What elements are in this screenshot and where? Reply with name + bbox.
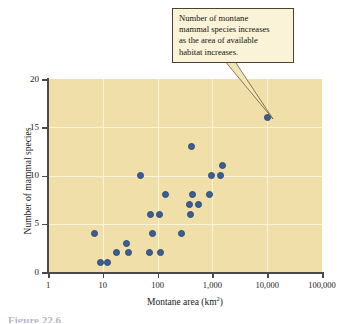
gridline-y-10 bbox=[48, 176, 322, 177]
scatter-plot-figure: 05101520 1101001,00010,000100,000 Number… bbox=[0, 0, 360, 324]
data-point bbox=[162, 191, 169, 198]
callout-line-3: as the area of available bbox=[179, 35, 288, 46]
x-tick-label-100: 100 bbox=[151, 281, 164, 290]
gridline-y-5 bbox=[48, 224, 322, 225]
data-point bbox=[97, 259, 104, 266]
x-tick-10 bbox=[103, 272, 105, 278]
y-tick-5 bbox=[42, 224, 48, 226]
data-point bbox=[91, 230, 98, 237]
x-tick-label-10000: 10,000 bbox=[256, 281, 279, 290]
data-point bbox=[187, 211, 194, 218]
data-point bbox=[178, 230, 185, 237]
x-tick-1000 bbox=[212, 272, 214, 278]
plot-area bbox=[48, 79, 322, 272]
callout-line-4: habitat increases. bbox=[179, 47, 288, 58]
x-tick-100 bbox=[158, 272, 160, 278]
gridline-x-10 bbox=[103, 79, 104, 272]
y-tick-20 bbox=[42, 79, 48, 81]
data-point bbox=[217, 172, 224, 179]
x-tick-1 bbox=[48, 272, 50, 278]
x-tick-10000 bbox=[267, 272, 269, 278]
x-axis-title-paren: ) bbox=[220, 297, 223, 307]
gridline-x-10000 bbox=[267, 79, 268, 272]
y-tick-label-20: 20 bbox=[30, 75, 39, 84]
x-axis-title: Montane area (km2) bbox=[48, 295, 322, 307]
x-tick-label-10: 10 bbox=[99, 281, 108, 290]
callout-line-2: mammal species increases bbox=[179, 24, 288, 35]
data-point bbox=[208, 172, 215, 179]
y-axis-title: Number of mammal species bbox=[23, 91, 33, 271]
y-tick-label-5: 5 bbox=[35, 219, 40, 228]
callout-annotation: Number of montane mammal species increas… bbox=[172, 8, 294, 63]
y-tick-label-0: 0 bbox=[35, 268, 40, 277]
data-point bbox=[157, 249, 164, 256]
data-point bbox=[219, 162, 226, 169]
data-point bbox=[195, 201, 202, 208]
data-point bbox=[264, 114, 271, 121]
y-tick-15 bbox=[42, 127, 48, 129]
data-point bbox=[147, 211, 154, 218]
x-tick-100000 bbox=[322, 272, 324, 278]
x-tick-label-1000: 1,000 bbox=[203, 281, 222, 290]
data-point bbox=[189, 191, 196, 198]
gridline-x-100 bbox=[158, 79, 159, 272]
data-point bbox=[149, 230, 156, 237]
x-axis-line bbox=[47, 272, 323, 274]
data-point bbox=[125, 249, 132, 256]
y-tick-10 bbox=[42, 176, 48, 178]
x-tick-label-100000: 100,000 bbox=[308, 281, 336, 290]
data-point bbox=[188, 143, 195, 150]
callout-line-1: Number of montane bbox=[179, 13, 288, 24]
figure-caption-fragment: Figure 22.6 bbox=[8, 314, 61, 323]
gridline-y-15 bbox=[48, 127, 322, 128]
data-point bbox=[156, 211, 163, 218]
data-point bbox=[146, 249, 153, 256]
data-point bbox=[137, 172, 144, 179]
data-point bbox=[186, 201, 193, 208]
x-axis-title-text: Montane area (km bbox=[147, 297, 217, 307]
data-point bbox=[123, 240, 130, 247]
data-point bbox=[113, 249, 120, 256]
data-point bbox=[104, 259, 111, 266]
x-tick-label-1: 1 bbox=[46, 281, 50, 290]
